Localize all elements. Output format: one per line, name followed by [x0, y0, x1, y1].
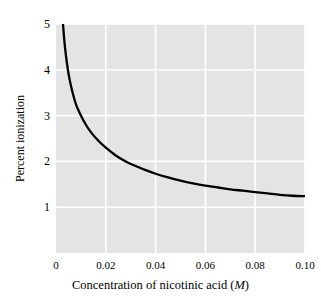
y-tick-label: 2	[4, 155, 50, 167]
y-tick-label: 3	[4, 110, 50, 122]
x-tick-label: 0.04	[134, 259, 178, 271]
chart-figure: 12345 00.020.040.060.080.10 Percent ioni…	[0, 0, 321, 303]
x-axis-title: Concentration of nicotinic acid (M)	[0, 278, 321, 292]
x-axis-title-text: Concentration of nicotinic acid (	[72, 278, 234, 292]
x-tick-label: 0.02	[84, 259, 128, 271]
x-axis-title-unit: M	[234, 278, 244, 292]
data-series-line	[63, 24, 305, 196]
plot-area	[56, 24, 305, 253]
x-axis-tick-labels: 00.020.040.060.080.10	[0, 259, 321, 275]
plot-canvas	[56, 24, 305, 253]
x-tick-label: 0.06	[183, 259, 227, 271]
y-tick-label: 4	[4, 64, 50, 76]
x-axis-title-close: )	[245, 278, 249, 292]
x-tick-label: 0.10	[283, 259, 321, 271]
gridlines-vertical	[106, 24, 305, 253]
y-tick-label: 5	[4, 18, 50, 30]
x-tick-label: 0.08	[233, 259, 277, 271]
y-tick-label: 1	[4, 201, 50, 213]
x-tick-label: 0	[34, 259, 78, 271]
y-axis-title: Percent ionization	[14, 59, 27, 219]
y-axis-title-wrapper: Percent ionization	[0, 0, 1, 1]
